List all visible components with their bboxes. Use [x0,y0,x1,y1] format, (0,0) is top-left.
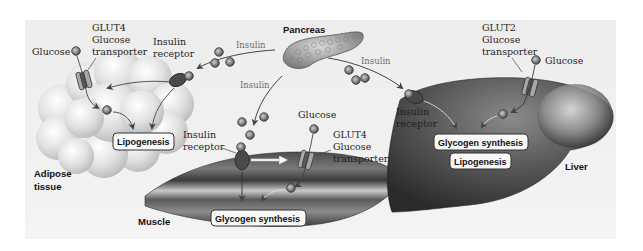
muscle-internal-glucose [287,184,296,193]
muscle-transporter-label-3: transporter [333,153,389,164]
liver-transporter-label-1: GLUT2 [482,22,516,33]
adipose-tissue-shape [36,48,194,178]
adipose-internal-glucose [103,106,112,115]
muscle-glycogen-synthesis-label: Glycogen synthesis [215,214,300,224]
pancreas-label: Pancreas [283,24,325,35]
liver-glucose-label: Glucose [545,55,584,66]
muscle-tissue-label: Muscle [138,216,170,227]
adipose-transporter-label-3: transporter [92,46,148,57]
muscle-receptor-label-2: receptor [183,141,225,152]
liver-glucose-molecule [532,56,541,65]
liver-tissue-label: Liver [565,161,588,172]
muscle-glucose-molecule [310,125,319,134]
insulin-label-liver: Insulin [361,56,391,66]
insulin-molecules-adipose [211,48,235,68]
liver-receptor-label-1: Insulin [396,106,429,117]
insulin-label-muscle: Insulin [240,80,270,90]
liver-receptor-label-2: receptor [396,118,438,129]
adipose-glucose-label: Glucose [32,46,71,57]
liver-glycogen-synthesis-label: Glycogen synthesis [438,138,523,148]
adipose-receptor-label-1: Insulin [153,36,186,47]
muscle-glucose-label: Glucose [298,109,337,120]
muscle-insulin-receptor [235,143,249,170]
insulin-action-diagram: Pancreas Insulin Insulin Insulin Glucose… [0,0,643,251]
liver-internal-glucose [499,110,508,119]
adipose-receptor-label-2: receptor [153,48,195,59]
insulin-molecules-muscle [238,113,269,140]
liver-transporter-label-3: transporter [482,46,538,57]
adipose-transporter-label-1: GLUT4 [92,22,126,33]
adipose-lipogenesis-label: Lipogenesis [117,137,170,147]
adipose-glucose-molecule [72,47,81,56]
liver-transporter-label-2: Glucose [482,34,521,45]
adipose-transporter-label-2: Glucose [92,34,131,45]
insulin-arrow-to-adipose [198,50,275,68]
insulin-label-adipose: Insulin [236,40,266,50]
adipose-tissue-label-2: tissue [34,181,61,192]
adipose-tissue-label-1: Adipose [34,168,71,179]
liver-lipogenesis-label: Lipogenesis [454,157,507,167]
muscle-receptor-label-1: Insulin [183,129,216,140]
muscle-transporter-label-1: GLUT4 [333,129,367,140]
muscle-transporter-label-2: Glucose [333,141,372,152]
